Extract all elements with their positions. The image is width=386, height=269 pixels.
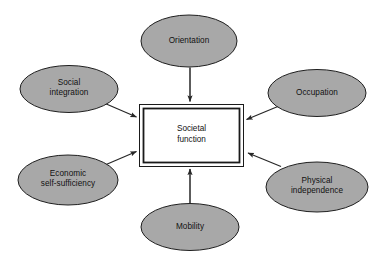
diagram-canvas: Societal function Orientation Social int… [0, 0, 386, 269]
arrow-occupation-to-center [247, 106, 280, 120]
node-ellipse-occupation [268, 70, 366, 117]
center-node-label: Societal function [143, 124, 240, 145]
node-ellipse-physical-independence [266, 162, 368, 212]
arrow-social-integration-to-center [104, 103, 137, 117]
arrow-economic-self-sufficiency-to-center [105, 152, 137, 166]
node-ellipse-social-integration [20, 66, 118, 113]
arrow-physical-independence-to-center [248, 153, 281, 167]
node-ellipse-mobility [141, 204, 239, 251]
node-ellipse-economic-self-sufficiency [18, 155, 118, 205]
node-ellipse-orientation [141, 15, 237, 67]
